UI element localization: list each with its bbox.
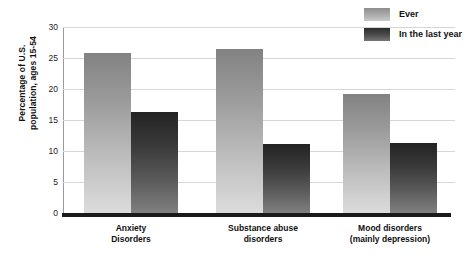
x-axis-label-2-line-2: disorders	[193, 234, 333, 245]
x-axis-label-1-line-1: Anxiety	[61, 223, 201, 234]
y-tick-label-15: 15	[49, 115, 58, 125]
y-axis-title-line2: population, ages 15-54	[28, 3, 39, 163]
y-tick-label-30: 30	[49, 22, 58, 32]
bar-last-year-group-2	[263, 144, 310, 213]
gridline-30: 30	[63, 27, 455, 28]
legend-swatch-ever-icon	[364, 8, 390, 21]
x-axis-label-3-line-2: (mainly depression)	[320, 234, 460, 245]
x-axis-label-group-1: AnxietyDisorders	[61, 223, 201, 245]
bar-ever-group-3	[343, 94, 390, 213]
y-tick-label-20: 20	[49, 84, 58, 94]
y-tick-label-10: 10	[49, 146, 58, 156]
x-axis-label-2-line-1: Substance abuse	[193, 223, 333, 234]
bar-chart: Ever In the last year Percentage of U.S.…	[0, 0, 466, 260]
x-axis-label-1-line-2: Disorders	[61, 234, 201, 245]
legend-item-ever: Ever	[364, 7, 464, 22]
gridline-0: 0	[63, 213, 455, 214]
legend-label-ever: Ever	[399, 10, 419, 19]
y-tick-label-25: 25	[49, 53, 58, 63]
x-axis-label-group-2: Substance abusedisorders	[193, 223, 333, 245]
x-axis-label-3-line-1: Mood disorders	[320, 223, 460, 234]
bar-last-year-group-1	[131, 112, 178, 213]
y-axis-title: Percentage of U.S. population, ages 15-5…	[17, 3, 39, 163]
x-axis-label-group-3: Mood disorders(mainly depression)	[320, 223, 460, 245]
y-axis-title-line1: Percentage of U.S.	[17, 3, 28, 163]
y-tick-label-5: 5	[53, 177, 58, 187]
bar-ever-group-1	[84, 53, 131, 213]
bar-ever-group-2	[216, 49, 263, 213]
bar-last-year-group-3	[390, 143, 437, 213]
y-tick-label-0: 0	[53, 208, 58, 218]
plot-area: 051015202530	[63, 27, 455, 213]
